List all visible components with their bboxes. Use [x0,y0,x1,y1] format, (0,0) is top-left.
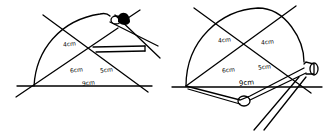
left-construction-diagram: 4cm 6cm 5cm 9cm [0,0,166,134]
label-lower-left: 6cm [70,65,84,73]
label-upper-right: 4cm [261,37,275,45]
label-lower-right: 5cm [258,62,272,70]
label-lower-left: 6cm [222,65,236,73]
right-construction-diagram: 4cm 4cm 6cm 5cm 9cm [166,0,332,134]
right-diagram-drawing [166,0,332,134]
label-lower-right: 5cm [100,65,114,73]
label-upper-left: 4cm [63,39,77,47]
left-diagram-drawing [0,0,166,134]
label-base: 9cm [239,78,255,88]
label-upper-left: 4cm [218,35,232,43]
pencil-tip-icon [118,13,130,25]
label-base: 9cm [82,78,96,86]
